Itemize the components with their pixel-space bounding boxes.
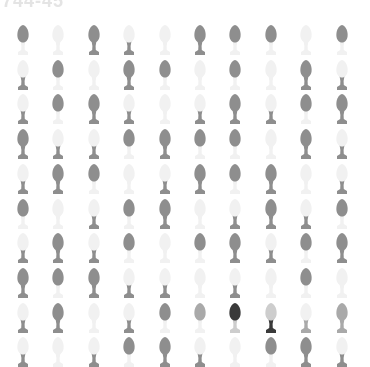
game-piece[interactable] [86, 93, 102, 125]
game-piece[interactable] [157, 163, 173, 195]
game-piece[interactable] [50, 163, 66, 195]
game-piece[interactable] [227, 198, 243, 230]
game-piece[interactable] [334, 59, 350, 91]
game-piece[interactable] [121, 128, 137, 160]
game-piece[interactable] [157, 302, 173, 334]
game-piece[interactable] [263, 336, 279, 367]
game-piece[interactable] [192, 302, 208, 334]
game-piece[interactable] [157, 128, 173, 160]
game-piece[interactable] [121, 232, 137, 264]
game-piece[interactable] [86, 232, 102, 264]
game-piece[interactable] [298, 93, 314, 125]
game-piece[interactable] [50, 59, 66, 91]
game-piece[interactable] [121, 302, 137, 334]
game-piece[interactable] [192, 59, 208, 91]
game-piece[interactable] [263, 198, 279, 230]
game-piece[interactable] [227, 163, 243, 195]
game-piece[interactable] [15, 198, 31, 230]
game-piece[interactable] [15, 267, 31, 299]
game-piece[interactable] [263, 93, 279, 125]
game-piece[interactable] [121, 163, 137, 195]
game-piece[interactable] [298, 302, 314, 334]
game-piece[interactable] [86, 198, 102, 230]
game-piece[interactable] [157, 93, 173, 125]
game-piece[interactable] [263, 24, 279, 56]
game-piece[interactable] [298, 198, 314, 230]
game-piece[interactable] [298, 128, 314, 160]
game-piece[interactable] [334, 163, 350, 195]
game-piece[interactable] [227, 93, 243, 125]
game-piece[interactable] [192, 336, 208, 367]
game-piece[interactable] [227, 232, 243, 264]
game-piece[interactable] [15, 24, 31, 56]
game-piece[interactable] [334, 24, 350, 56]
game-piece[interactable] [192, 128, 208, 160]
game-piece[interactable] [334, 302, 350, 334]
game-piece[interactable] [334, 128, 350, 160]
game-piece[interactable] [298, 267, 314, 299]
game-piece[interactable] [298, 232, 314, 264]
game-piece[interactable] [227, 59, 243, 91]
game-piece[interactable] [298, 59, 314, 91]
game-piece[interactable] [227, 267, 243, 299]
game-piece[interactable] [192, 93, 208, 125]
game-piece[interactable] [157, 24, 173, 56]
game-piece[interactable] [50, 267, 66, 299]
game-piece[interactable] [15, 302, 31, 334]
game-piece[interactable] [15, 93, 31, 125]
game-piece[interactable] [121, 267, 137, 299]
game-piece[interactable] [157, 267, 173, 299]
game-piece[interactable] [334, 93, 350, 125]
game-piece[interactable] [334, 198, 350, 230]
game-piece[interactable] [334, 232, 350, 264]
game-piece[interactable] [86, 24, 102, 56]
game-piece[interactable] [192, 24, 208, 56]
game-piece[interactable] [15, 232, 31, 264]
game-piece[interactable] [298, 163, 314, 195]
game-piece[interactable] [192, 232, 208, 264]
game-piece[interactable] [298, 336, 314, 367]
game-piece[interactable] [121, 198, 137, 230]
game-piece[interactable] [15, 336, 31, 367]
game-piece[interactable] [227, 336, 243, 367]
game-piece[interactable] [263, 232, 279, 264]
game-piece[interactable] [157, 59, 173, 91]
game-piece[interactable] [263, 302, 279, 334]
game-piece[interactable] [157, 232, 173, 264]
game-piece[interactable] [86, 302, 102, 334]
game-piece[interactable] [86, 128, 102, 160]
game-piece[interactable] [86, 267, 102, 299]
game-piece[interactable] [192, 198, 208, 230]
game-piece[interactable] [15, 128, 31, 160]
game-piece[interactable] [50, 232, 66, 264]
game-piece[interactable] [157, 198, 173, 230]
game-piece[interactable] [157, 336, 173, 367]
game-piece[interactable] [15, 163, 31, 195]
game-piece[interactable] [263, 59, 279, 91]
game-piece[interactable] [121, 59, 137, 91]
game-piece[interactable] [15, 59, 31, 91]
game-piece[interactable] [192, 163, 208, 195]
game-piece[interactable] [50, 336, 66, 367]
game-piece[interactable] [334, 336, 350, 367]
game-piece[interactable] [50, 128, 66, 160]
game-piece[interactable] [298, 24, 314, 56]
game-piece[interactable] [263, 128, 279, 160]
game-piece[interactable] [121, 24, 137, 56]
game-piece[interactable] [86, 336, 102, 367]
game-piece[interactable] [121, 93, 137, 125]
game-piece[interactable] [50, 24, 66, 56]
game-piece[interactable] [227, 24, 243, 56]
game-piece[interactable] [263, 163, 279, 195]
game-piece[interactable] [86, 163, 102, 195]
game-piece[interactable] [50, 198, 66, 230]
game-piece[interactable] [50, 302, 66, 334]
game-piece[interactable] [263, 267, 279, 299]
game-piece[interactable] [192, 267, 208, 299]
game-piece[interactable] [227, 128, 243, 160]
game-piece[interactable] [227, 302, 243, 334]
game-piece[interactable] [50, 93, 66, 125]
game-piece[interactable] [86, 59, 102, 91]
game-piece[interactable] [121, 336, 137, 367]
game-piece[interactable] [334, 267, 350, 299]
